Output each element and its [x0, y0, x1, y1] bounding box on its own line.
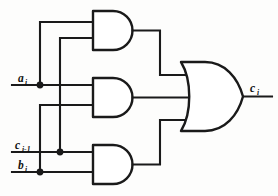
and-gate-middle[interactable]: [93, 78, 133, 117]
label-b-i-base: b: [18, 159, 24, 171]
carry-circuit-schematic: a i c i-1 b i c i: [0, 0, 278, 196]
wire-branch-a-i-to-and-top: [40, 22, 93, 85]
wire-and-bottom-output-to-or: [133, 120, 191, 165]
junction-dot-c-i-minus-1: [57, 149, 64, 156]
logic-diagram-canvas: a i c i-1 b i c i: [0, 0, 278, 196]
or-gate[interactable]: [181, 62, 243, 131]
junction-dot-b-i: [37, 169, 44, 176]
and-gate-bottom[interactable]: [93, 145, 133, 184]
label-c-i-base: c: [250, 82, 255, 94]
wire-branch-b-i-to-and-middle: [40, 105, 93, 172]
label-output-c-i: c i: [250, 82, 260, 97]
label-c-i-minus-1-base: c: [15, 139, 20, 151]
label-a-i-base: a: [18, 72, 24, 84]
label-c-i-minus-1-subscript: i-1: [22, 145, 31, 154]
wire-and-top-output-to-or: [133, 31, 191, 76]
and-gate-top[interactable]: [93, 11, 133, 50]
junction-dot-a-i: [37, 82, 44, 89]
wire-branch-c-i-minus-1-to-and-top: [60, 38, 93, 152]
